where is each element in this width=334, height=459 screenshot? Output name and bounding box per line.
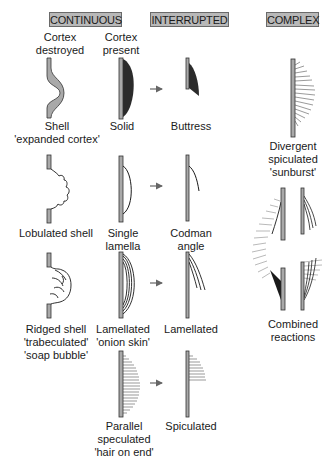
codman-angle-figure — [186, 155, 199, 221]
diagram-art — [0, 0, 334, 459]
ridged-shell-figure — [47, 253, 71, 318]
combined-reactions-figure — [252, 188, 322, 310]
lamellated-onion-skin-figure — [119, 252, 134, 318]
buttress-figure — [186, 58, 199, 96]
spiculated-figure — [186, 351, 206, 417]
parallel-speculated-figure — [119, 351, 140, 417]
shell-figure — [47, 58, 64, 118]
solid-figure — [119, 58, 134, 119]
lamellated-interrupted-figure — [186, 252, 205, 318]
sunburst-figure — [291, 59, 315, 137]
lobulated-shell-figure — [47, 155, 69, 223]
single-lamella-figure — [119, 156, 131, 222]
